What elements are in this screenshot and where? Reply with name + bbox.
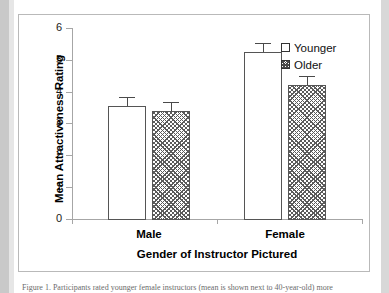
- y-tick-6: 6: [66, 28, 72, 29]
- errorbar-female-younger: [255, 43, 271, 52]
- x-tick-start: [72, 219, 73, 224]
- y-tick-label-6: 6: [56, 21, 62, 34]
- errorbar-stem: [171, 102, 172, 111]
- figure-border-box: 0 1 2 3 4 5 6 Mean Attrac: [18, 14, 370, 272]
- errorbar-stem: [263, 43, 264, 52]
- page-gutter-shadow-inner: [9, 0, 14, 293]
- errorbar-female-older: [299, 76, 315, 85]
- page-gutter-shadow: [0, 0, 9, 293]
- y-axis-line: [72, 28, 73, 219]
- legend-swatch-older-icon: [281, 60, 290, 69]
- x-axis-title: Gender of Instructor Pictured: [72, 248, 362, 260]
- page-edge-shadow: [381, 0, 389, 293]
- y-tick-5: 5: [66, 60, 72, 61]
- chart-legend: Younger Older: [281, 39, 336, 73]
- x-tick-end: [362, 219, 363, 224]
- bar-female-older: [288, 85, 326, 220]
- legend-entry-younger: Younger: [281, 39, 336, 56]
- errorbar-stem: [307, 76, 308, 85]
- x-category-label-female: Female: [245, 228, 325, 240]
- y-tick-3: 3: [66, 123, 72, 124]
- scanned-page: 0 1 2 3 4 5 6 Mean Attrac: [0, 0, 389, 293]
- errorbar-male-younger: [119, 97, 135, 106]
- figure-caption: Figure 1. Participants rated younger fem…: [22, 283, 374, 293]
- y-axis-title: Mean Attractiveness Rating: [53, 39, 65, 219]
- errorbar-stem: [127, 97, 128, 106]
- errorbar-male-older: [163, 102, 179, 111]
- y-tick-2: 2: [66, 155, 72, 156]
- x-tick-mid: [217, 219, 218, 224]
- bar-female-younger: [244, 52, 282, 220]
- y-tick-4: 4: [66, 92, 72, 93]
- bar-male-older: [152, 111, 190, 220]
- y-tick-1: 1: [66, 187, 72, 188]
- legend-label-older: Older: [294, 59, 322, 71]
- legend-label-younger: Younger: [294, 42, 336, 54]
- bar-chart: 0 1 2 3 4 5 6 Mean Attrac: [19, 15, 371, 273]
- legend-entry-older: Older: [281, 56, 336, 73]
- x-category-label-male: Male: [109, 228, 189, 240]
- bar-male-younger: [108, 106, 146, 220]
- legend-swatch-younger-icon: [281, 43, 290, 52]
